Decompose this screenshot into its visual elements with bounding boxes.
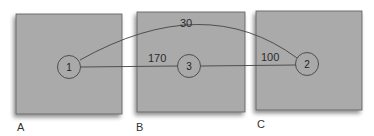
- node-1: 1: [58, 56, 81, 79]
- region-label-b: B: [136, 121, 143, 133]
- network-diagram: 30 170 100 1 3 2 A B C: [0, 0, 374, 136]
- edge-weight-1-2: 30: [180, 17, 192, 29]
- svg-text:1: 1: [66, 62, 72, 73]
- node-3: 3: [178, 55, 201, 78]
- edge-weight-3-2: 100: [261, 51, 279, 63]
- region-label-c: C: [257, 118, 265, 130]
- svg-text:2: 2: [304, 59, 310, 70]
- node-2: 2: [296, 53, 319, 76]
- edge-weight-1-3: 170: [148, 52, 166, 64]
- region-label-a: A: [17, 121, 25, 133]
- svg-text:3: 3: [186, 61, 192, 72]
